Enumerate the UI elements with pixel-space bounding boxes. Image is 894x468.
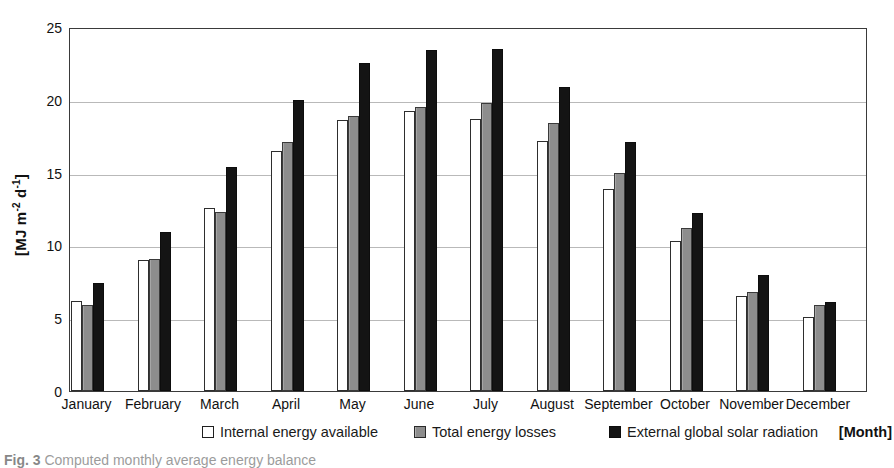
bar-internal[interactable]	[271, 151, 282, 391]
x-axis-tick-label: May	[339, 396, 365, 412]
bar-internal[interactable]	[404, 111, 415, 391]
bar-solar[interactable]	[625, 142, 636, 391]
bar-group	[204, 29, 237, 391]
y-axis-tick-label: 25	[36, 20, 62, 36]
bar-losses[interactable]	[814, 305, 825, 391]
y-axis-tick-label: 15	[36, 166, 62, 182]
bar-internal[interactable]	[803, 317, 814, 391]
bar-solar[interactable]	[293, 100, 304, 391]
plot-area	[69, 28, 867, 392]
x-axis-tick-label: June	[404, 396, 434, 412]
bar-internal[interactable]	[537, 141, 548, 391]
bar-internal[interactable]	[138, 260, 149, 391]
x-axis-tick-label: July	[473, 396, 498, 412]
legend-item-solar[interactable]: External global solar radiation	[609, 424, 818, 440]
figure-caption-text: Computed monthly average energy balance	[44, 452, 316, 468]
legend-label: External global solar radiation	[627, 424, 818, 440]
bar-internal[interactable]	[736, 296, 747, 391]
bar-losses[interactable]	[149, 259, 160, 391]
x-axis-tick-label: October	[660, 396, 710, 412]
bar-solar[interactable]	[426, 50, 437, 391]
bar-internal[interactable]	[470, 119, 481, 391]
legend-swatch-internal-icon	[202, 426, 214, 438]
bar-losses[interactable]	[548, 123, 559, 391]
x-axis-title: [Month]	[839, 421, 892, 443]
bar-group	[470, 29, 503, 391]
bar-group	[71, 29, 104, 391]
bar-group	[670, 29, 703, 391]
bar-losses[interactable]	[681, 228, 692, 391]
bar-losses[interactable]	[614, 173, 625, 391]
bar-group	[337, 29, 370, 391]
legend-label: Internal energy available	[220, 424, 378, 440]
x-axis-tick-label: February	[125, 396, 181, 412]
legend-label: Total energy losses	[432, 424, 556, 440]
legend-item-losses[interactable]: Total energy losses	[414, 424, 556, 440]
bar-internal[interactable]	[337, 120, 348, 391]
bar-internal[interactable]	[71, 301, 82, 391]
chart-legend: Internal energy availableTotal energy lo…	[69, 421, 867, 443]
figure-caption-prefix: Fig. 3	[4, 452, 41, 468]
bar-losses[interactable]	[747, 292, 758, 391]
x-axis-tick-label: September	[584, 396, 652, 412]
x-axis-tick-label: January	[62, 396, 112, 412]
bar-losses[interactable]	[82, 305, 93, 391]
x-axis-tick-label: December	[786, 396, 851, 412]
bar-solar[interactable]	[359, 63, 370, 391]
bar-solar[interactable]	[825, 302, 836, 391]
bar-group	[271, 29, 304, 391]
legend-swatch-losses-icon	[414, 426, 426, 438]
y-axis-tick-label: 0	[36, 384, 62, 400]
bar-solar[interactable]	[160, 232, 171, 391]
bar-solar[interactable]	[93, 283, 104, 391]
bar-group	[803, 29, 836, 391]
bar-group	[736, 29, 769, 391]
bar-groups	[70, 29, 866, 391]
y-axis-ticks: 0510152025	[30, 0, 62, 465]
y-axis-title-text: [MJ m-2 d-1]	[11, 174, 29, 256]
bar-losses[interactable]	[481, 103, 492, 391]
x-axis-tick-label: March	[200, 396, 239, 412]
bar-losses[interactable]	[215, 212, 226, 391]
bar-solar[interactable]	[692, 213, 703, 391]
bar-group	[138, 29, 171, 391]
legend-swatch-solar-icon	[609, 426, 621, 438]
x-axis-tick-label: April	[272, 396, 300, 412]
bar-internal[interactable]	[204, 208, 215, 391]
y-axis-tick-label: 10	[36, 238, 62, 254]
bar-internal[interactable]	[670, 241, 681, 391]
y-axis-tick-label: 20	[36, 93, 62, 109]
bar-losses[interactable]	[415, 107, 426, 391]
x-axis-tick-label: November	[719, 396, 784, 412]
legend-item-internal[interactable]: Internal energy available	[202, 424, 378, 440]
y-axis-tick-label: 5	[36, 311, 62, 327]
bar-group	[404, 29, 437, 391]
bar-solar[interactable]	[758, 275, 769, 391]
bar-solar[interactable]	[226, 167, 237, 391]
x-axis-tick-label: August	[530, 396, 574, 412]
bar-internal[interactable]	[603, 189, 614, 391]
bar-group	[537, 29, 570, 391]
bar-solar[interactable]	[559, 87, 570, 391]
bar-group	[603, 29, 636, 391]
bar-solar[interactable]	[492, 49, 503, 391]
figure-caption: Fig. 3 Computed monthly average energy b…	[4, 452, 316, 468]
bar-losses[interactable]	[348, 116, 359, 391]
x-axis-ticks: JanuaryFebruaryMarchAprilMayJuneJulyAugu…	[69, 396, 867, 418]
bar-losses[interactable]	[282, 142, 293, 391]
